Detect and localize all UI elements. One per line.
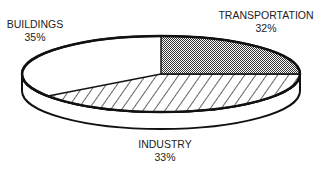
label-transportation-name: TRANSPORTATION bbox=[216, 9, 316, 22]
label-transportation-pct: 32% bbox=[216, 22, 316, 35]
label-transportation: TRANSPORTATION 32% bbox=[216, 9, 316, 35]
label-buildings-name: BUILDINGS bbox=[6, 18, 64, 31]
label-industry-name: INDUSTRY bbox=[125, 138, 205, 151]
label-buildings: BUILDINGS 35% bbox=[6, 18, 64, 44]
label-buildings-pct: 35% bbox=[6, 31, 64, 44]
label-industry: INDUSTRY 33% bbox=[125, 138, 205, 164]
label-industry-pct: 33% bbox=[125, 151, 205, 164]
